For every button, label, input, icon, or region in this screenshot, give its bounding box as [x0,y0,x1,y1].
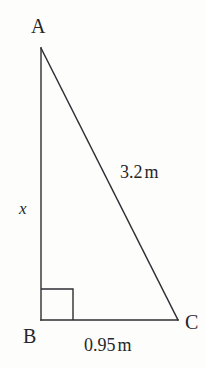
vertex-label-c: C [185,312,198,332]
triangle-drawing [0,0,205,368]
base-unit: m [118,335,132,355]
side-ac-hypotenuse-line [41,48,178,320]
side-length-label-x: x [19,200,27,217]
base-value: 0.95 [84,335,116,355]
hypotenuse-unit: m [145,162,159,182]
vertex-label-a: A [31,16,45,36]
triangle-figure: A B C x 3.2m 0.95m [0,0,205,368]
right-angle-marker-icon [41,289,73,320]
hypotenuse-value: 3.2 [120,162,143,182]
side-length-label-base: 0.95m [84,336,132,354]
vertex-label-b: B [23,326,36,346]
side-length-label-hypotenuse: 3.2m [120,163,159,181]
